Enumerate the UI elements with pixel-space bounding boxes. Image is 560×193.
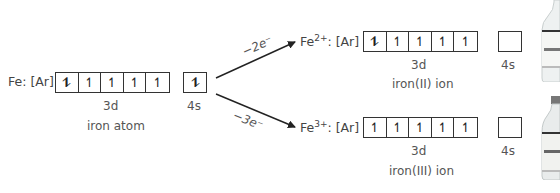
reagent-bottle-bottom-image [541,96,560,180]
ion3-3d-orbital-3: ↿ [409,118,432,137]
fe2-config: : [Ar] [327,34,359,49]
ion2-4s-orbital [498,31,522,52]
ion2-4s-label: 4s [501,58,515,72]
fe2-ion-label: Fe2+: [Ar] [300,33,359,49]
ion3-3d-orbital-2: ↿ [387,118,410,137]
spin-up-icon: ↿ [437,35,448,48]
ion3-3d-label: 3d [411,144,426,158]
ion3-3d-orbital-1: ↿ [364,118,387,137]
spin-up-icon: ↿ [415,121,426,134]
spin-up-icon: ↿ [460,35,471,48]
ion2-3d-orbital-4: ↿ [432,32,455,51]
ion3-3d-orbitals: ↿ ↿ ↿ ↿ ↿ [363,117,478,138]
ion3-3d-orbital-4: ↿ [432,118,455,137]
fe3-charge: 3+ [314,119,327,129]
paired-spin-icon: ⥮ [370,35,379,48]
ion3-4s-orbital [498,117,522,138]
ion2-3d-orbital-5: ↿ [454,32,477,51]
ion3-caption: iron(III) ion [389,164,454,178]
spin-up-icon: ↿ [437,121,448,134]
reagent-bottle-top-image [540,0,560,82]
ion2-3d-orbital-3: ↿ [409,32,432,51]
ion2-3d-orbitals: ⥮ ↿ ↿ ↿ ↿ [363,31,478,52]
ion2-3d-orbital-1: ⥮ [364,32,387,51]
reaction-arrows [0,0,560,193]
fe3-ion-label: Fe3+: [Ar] [300,119,359,135]
spin-up-icon: ↿ [392,35,403,48]
fe3-config: : [Ar] [327,120,359,135]
ion3-3d-orbital-5: ↿ [454,118,477,137]
spin-up-icon: ↿ [415,35,426,48]
ion3-4s-label: 4s [501,144,515,158]
ion2-3d-orbital-2: ↿ [387,32,410,51]
fe2-charge: 2+ [314,33,327,43]
ion2-caption: iron(II) ion [392,77,454,91]
fe3-symbol: Fe [300,120,314,135]
spin-up-icon: ↿ [369,121,380,134]
spin-up-icon: ↿ [460,121,471,134]
ion2-3d-label: 3d [411,58,426,72]
spin-up-icon: ↿ [392,121,403,134]
fe2-symbol: Fe [300,34,314,49]
